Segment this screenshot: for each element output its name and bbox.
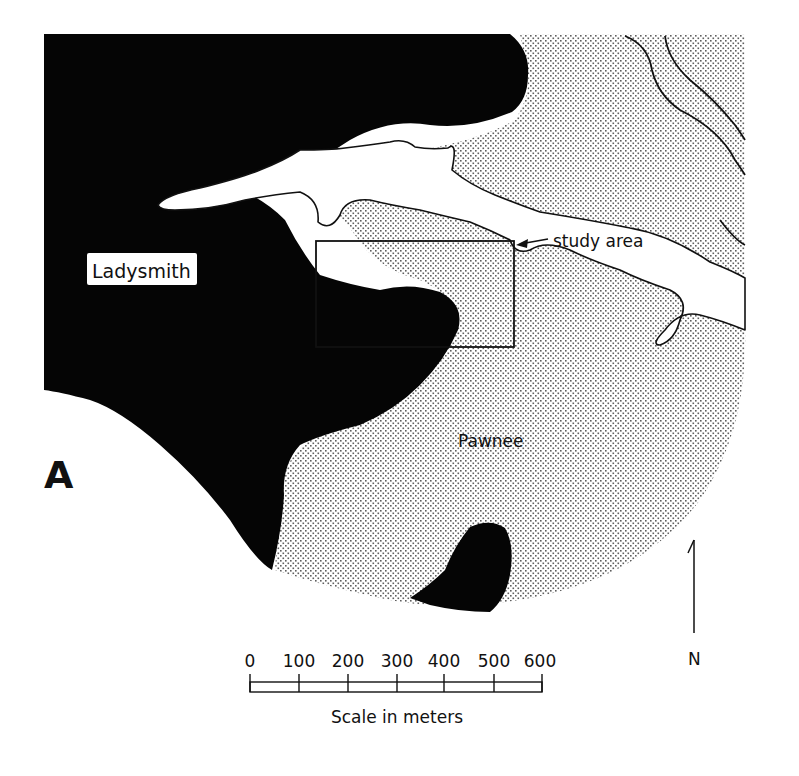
scale-tick-600: 600: [524, 651, 556, 671]
study-area-label: study area: [553, 231, 643, 251]
scale-tick-200: 200: [332, 651, 364, 671]
scale-tick-500: 500: [478, 651, 510, 671]
north-label: N: [688, 649, 701, 669]
ladysmith-label: Ladysmith: [92, 260, 191, 282]
scale-tick-0: 0: [245, 651, 256, 671]
scale-tick-100: 100: [283, 651, 315, 671]
soil-map: study area Ladysmith Pawnee A N 0 100 20…: [0, 0, 799, 776]
scale-bar: [250, 674, 542, 692]
pawnee-label: Pawnee: [458, 431, 524, 451]
panel-label: A: [44, 453, 74, 497]
scale-tick-400: 400: [428, 651, 460, 671]
scale-tick-labels: 0 100 200 300 400 500 600: [245, 651, 557, 671]
scale-title: Scale in meters: [331, 707, 463, 727]
scale-tick-300: 300: [381, 651, 413, 671]
north-arrow: [688, 540, 694, 633]
